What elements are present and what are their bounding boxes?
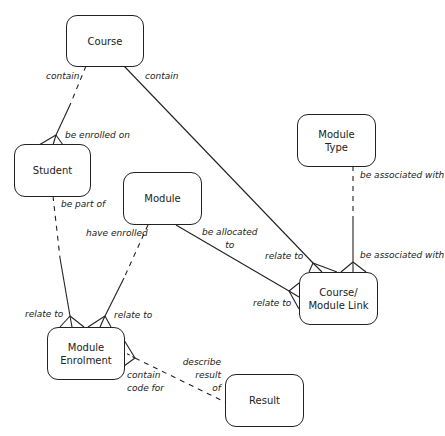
entity-student[interactable]: Student (14, 144, 91, 197)
label-enrolment-contain-code: contain code for (127, 369, 164, 395)
entity-result[interactable]: Result (225, 374, 304, 427)
label-link-relate-to-course: relate to (265, 250, 303, 263)
line-student-enrolment-dashed (53, 196, 60, 258)
label-module-allocated-to: be allocated to (202, 226, 257, 252)
entity-module[interactable]: Module (123, 172, 202, 225)
label-module-have-enrolled: have enrolled (86, 227, 148, 240)
entity-module-enrolment[interactable]: Module Enrolment (47, 327, 125, 380)
label-link-relate-to-module: relate to (253, 297, 291, 310)
label-enrolment-relate-to-module: relate to (114, 309, 152, 322)
entity-module-type[interactable]: Module Type (297, 114, 376, 167)
label-result-describe: describe result of (181, 356, 221, 395)
label-student-enrolled-on: be enrolled on (65, 129, 130, 142)
label-course-contain-student: contain (46, 70, 79, 83)
label-enrolment-relate-to-student: relate to (25, 308, 63, 321)
label-course-contain-link: contain (145, 70, 178, 83)
label-student-part-of: be part of (61, 198, 105, 211)
entity-course[interactable]: Course (66, 15, 144, 67)
label-link-associated-moduletype: be associated with (360, 249, 444, 262)
entity-course-module-link[interactable]: Course/ Module Link (299, 272, 378, 325)
label-moduletype-associated: be associated with (360, 169, 444, 182)
